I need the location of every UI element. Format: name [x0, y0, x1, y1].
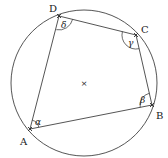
center-marker: ×: [81, 79, 88, 88]
angle-label-beta: β: [139, 95, 145, 105]
cyclic-quadrilateral-diagram: × A B C D α β γ δ: [0, 0, 168, 158]
vertex-label-a: A: [19, 136, 28, 147]
vertex-label-c: C: [141, 24, 149, 35]
quadrilateral-abcd: [30, 16, 152, 129]
angle-label-delta: δ: [61, 20, 66, 30]
vertex-points: [28, 14, 154, 131]
vertex-label-d: D: [49, 3, 57, 14]
vertex-label-b: B: [156, 110, 163, 121]
angle-label-gamma: γ: [128, 38, 134, 48]
angle-label-alpha: α: [35, 117, 41, 127]
